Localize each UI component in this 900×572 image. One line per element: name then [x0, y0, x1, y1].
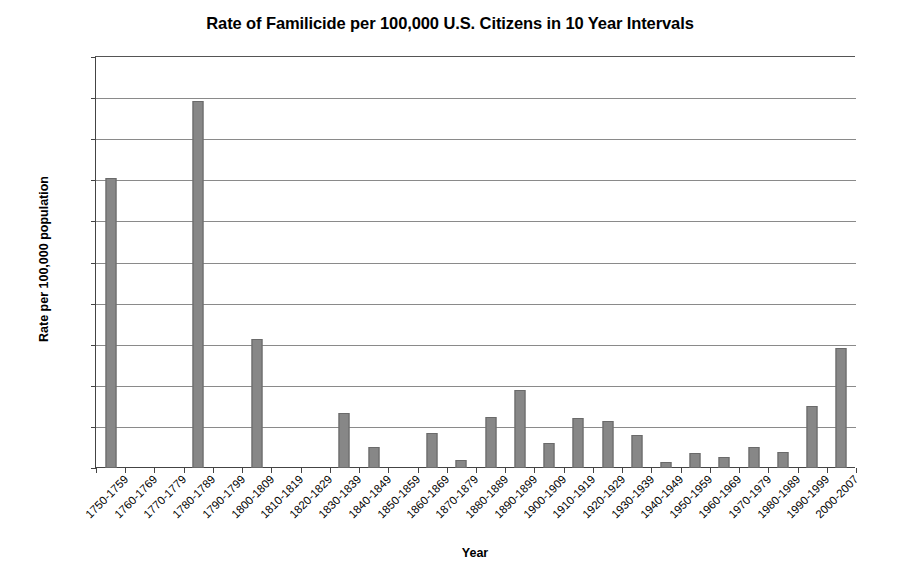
- bar[interactable]: [544, 443, 555, 468]
- bar[interactable]: [807, 406, 818, 468]
- familicide-rate-bar-chart: Rate of Familicide per 100,000 U.S. Citi…: [0, 0, 900, 572]
- y-axis-title: Rate per 100,000 population: [37, 119, 51, 399]
- bar-slot: [651, 57, 680, 468]
- bar-slot: [184, 57, 213, 468]
- bar[interactable]: [836, 348, 847, 468]
- chart-title: Rate of Familicide per 100,000 U.S. Citi…: [0, 14, 900, 33]
- bar-slot: [534, 57, 563, 468]
- bar-slot: [388, 57, 417, 468]
- bar-slot: [242, 57, 271, 468]
- bar[interactable]: [339, 413, 350, 468]
- bars-group: [96, 57, 856, 468]
- bar[interactable]: [602, 421, 613, 468]
- bar[interactable]: [456, 460, 467, 468]
- bar[interactable]: [573, 418, 584, 468]
- bar-slot: [476, 57, 505, 468]
- bar[interactable]: [427, 433, 438, 468]
- bar[interactable]: [514, 390, 525, 468]
- bar-slot: [418, 57, 447, 468]
- bar[interactable]: [690, 453, 701, 468]
- x-axis-tick-labels-group: 1750-17591760-17691770-17791780-17891790…: [95, 473, 855, 543]
- bar[interactable]: [631, 435, 642, 468]
- bar[interactable]: [485, 417, 496, 468]
- bar-slot: [213, 57, 242, 468]
- bar-slot: [768, 57, 797, 468]
- bar-slot: [505, 57, 534, 468]
- x-axis-title: Year: [95, 546, 855, 560]
- x-tick-mark: [856, 468, 857, 473]
- bar[interactable]: [251, 339, 262, 468]
- bar[interactable]: [368, 447, 379, 468]
- bar-slot: [125, 57, 154, 468]
- bar-slot: [330, 57, 359, 468]
- bar-slot: [798, 57, 827, 468]
- plot-area: 0.1000.0900.0800.0700.0600.0500.0400.030…: [95, 57, 855, 468]
- bar-slot: [301, 57, 330, 468]
- bar-slot: [681, 57, 710, 468]
- bar-slot: [622, 57, 651, 468]
- bar-slot: [564, 57, 593, 468]
- bar[interactable]: [719, 457, 730, 468]
- bar-slot: [739, 57, 768, 468]
- bar-slot: [96, 57, 125, 468]
- bar-slot: [154, 57, 183, 468]
- bar-slot: [271, 57, 300, 468]
- bar-slot: [447, 57, 476, 468]
- bar[interactable]: [748, 447, 759, 468]
- bar-slot: [710, 57, 739, 468]
- bar-slot: [593, 57, 622, 468]
- bar[interactable]: [105, 178, 116, 468]
- bar[interactable]: [193, 101, 204, 468]
- bar-slot: [827, 57, 856, 468]
- bar-slot: [359, 57, 388, 468]
- bar[interactable]: [660, 462, 671, 468]
- bar[interactable]: [777, 452, 788, 468]
